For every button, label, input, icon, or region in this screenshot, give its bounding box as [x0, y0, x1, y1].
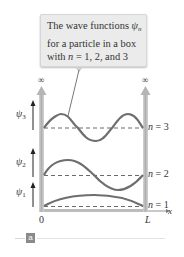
length-label: L — [145, 214, 151, 225]
left-infinity-label: ∞ — [38, 75, 44, 85]
level-label-n3: n = 3 — [148, 121, 169, 132]
figure-tag: a — [26, 233, 35, 243]
psi3-label: ψ3 — [16, 108, 26, 121]
x-axis-label: x — [168, 206, 172, 216]
figure-tag-rule-right — [37, 238, 165, 239]
level-label-n2: n = 2 — [148, 168, 169, 179]
left-wall-arrow-icon — [37, 86, 47, 95]
wave-psi1 — [44, 195, 143, 206]
origin-label: 0 — [39, 214, 44, 225]
psi3-arrow-icon — [31, 100, 36, 106]
callout-leader-line — [68, 70, 79, 116]
right-wall — [143, 94, 148, 212]
right-infinity-label: ∞ — [142, 75, 148, 85]
psi1-arrow-icon — [31, 182, 36, 188]
level-label-n1: n = 1 — [148, 199, 169, 210]
psi2-arrow-icon — [31, 148, 36, 154]
psi1-label: ψ1 — [16, 186, 26, 199]
right-wall-arrow-icon — [141, 86, 151, 95]
box-floor — [39, 209, 148, 212]
psi2-label: ψ2 — [16, 156, 26, 169]
left-wall — [39, 94, 44, 212]
figure-tag-rule-left — [15, 238, 25, 239]
